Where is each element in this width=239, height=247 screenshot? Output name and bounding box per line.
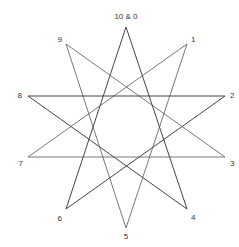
star-diagram: 10 & 0123456789: [0, 0, 239, 247]
vertex-label-7: 7: [19, 159, 24, 168]
edge-6-0: [66, 27, 126, 209]
edge-1-5: [126, 44, 187, 228]
vertex-label-4: 4: [191, 213, 196, 222]
edge-0-4: [126, 27, 187, 209]
vertex-label-2: 2: [230, 91, 235, 100]
vertex-label-8: 8: [18, 91, 23, 100]
vertex-label-9: 9: [58, 35, 63, 44]
vertex-label-1: 1: [191, 35, 196, 44]
label-group: 10 & 0123456789: [18, 12, 235, 241]
vertex-label-3: 3: [230, 159, 235, 168]
edge-group: [28, 27, 225, 228]
vertex-label-5: 5: [124, 232, 129, 241]
vertex-label-6: 6: [58, 214, 63, 223]
vertex-label-0: 10 & 0: [114, 12, 138, 21]
edge-5-9: [66, 44, 126, 228]
